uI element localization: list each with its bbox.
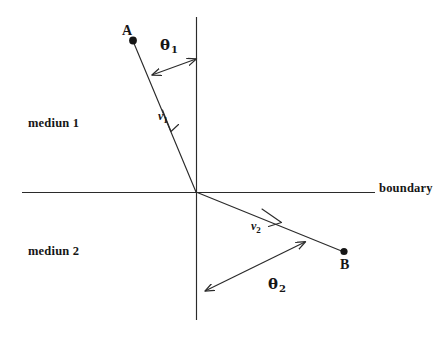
point-b-marker bbox=[340, 248, 347, 255]
velocity-1-subscript: 1 bbox=[163, 115, 168, 125]
point-b-label: B bbox=[340, 258, 349, 272]
boundary-label: boundary bbox=[379, 182, 433, 195]
velocity-1-label: v1 bbox=[158, 110, 168, 122]
theta-2-subscript: 2 bbox=[279, 283, 286, 294]
refracted-ray-arrowhead bbox=[262, 209, 282, 227]
refracted-ray bbox=[196, 192, 344, 252]
point-a-label: A bbox=[122, 24, 132, 38]
theta-1-symbol: θ bbox=[160, 36, 170, 54]
medium-1-label: mediun 1 bbox=[28, 117, 79, 130]
velocity-2-label: v2 bbox=[251, 220, 261, 232]
theta-1-subscript: 1 bbox=[171, 44, 178, 55]
theta-2-angle-arrow bbox=[205, 242, 305, 291]
theta-1-label: θ1 bbox=[160, 38, 177, 53]
medium-2-label: mediun 2 bbox=[28, 245, 79, 258]
theta-1-angle-arrow bbox=[152, 59, 196, 75]
refraction-diagram bbox=[0, 0, 446, 341]
velocity-2-subscript: 2 bbox=[256, 225, 261, 235]
theta-2-symbol: θ bbox=[268, 275, 278, 293]
diagram-canvas: mediun 1 mediun 2 boundary A B θ1 θ2 v1 … bbox=[0, 0, 446, 341]
theta-2-label: θ2 bbox=[268, 277, 285, 292]
